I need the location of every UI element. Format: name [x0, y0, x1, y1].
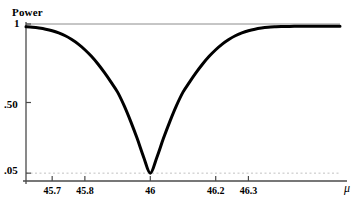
- plot-area: [0, 0, 359, 204]
- x-tick-label-46-3: 46.3: [240, 186, 258, 196]
- power-curve-chart: Power 1 .50 .05 45.7 45.8 46 46.2 46.3 μ: [0, 0, 359, 204]
- y-tick-label-1: 1: [14, 18, 20, 29]
- power-curve: [26, 26, 340, 173]
- x-tick-label-46-2: 46.2: [207, 186, 225, 196]
- x-axis-symbol-mu: μ: [344, 182, 350, 194]
- x-tick-label-46: 46: [145, 186, 155, 196]
- y-tick-label-05: .05: [4, 165, 18, 176]
- x-tick-label-45-8: 45.8: [76, 186, 94, 196]
- y-tick-label-50: .50: [4, 99, 18, 110]
- x-tick-label-45-7: 45.7: [43, 186, 61, 196]
